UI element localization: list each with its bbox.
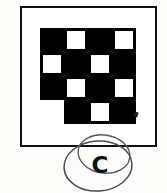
checker-cell-r3c1 [40,76,64,100]
checker-cell-r4c4 [112,100,136,124]
checker-cell-r2c1 [40,52,64,76]
checker-cell-r4c1-empty [40,100,64,124]
checker-cell-r2c2 [64,52,88,76]
checker-cell-r2c3 [88,52,112,76]
checker-cell-r4c2 [64,100,88,124]
checker-cell-r1c4 [112,28,136,52]
checker-cell-r4c3 [88,100,112,124]
checker-cell-r3c4 [112,76,136,100]
checker-cell-r1c3 [88,28,112,52]
checker-cell-r2c4 [112,52,136,76]
answer-letter: C [62,130,138,192]
checker-cell-r1c2 [64,28,88,52]
checker-cell-r3c2 [64,76,88,100]
checker-cell-r3c3 [88,76,112,100]
checker-cell-r1c1 [40,28,64,52]
figure-canvas: C [0,0,167,193]
checkerboard-pattern [40,28,136,126]
answer-letter-text: C [92,154,109,177]
circled-answer-annotation: C [62,130,138,192]
